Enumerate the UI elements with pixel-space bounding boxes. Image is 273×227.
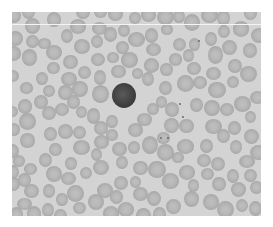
red-blood-cell (67, 95, 80, 109)
red-blood-cell (161, 24, 173, 35)
red-blood-cell (42, 203, 54, 216)
platelet (167, 137, 169, 139)
red-blood-cell (46, 166, 62, 182)
red-blood-cell (208, 82, 225, 98)
red-blood-cell (104, 27, 116, 42)
red-blood-cell (39, 153, 52, 167)
scan-line-artifact (12, 24, 261, 25)
red-blood-cell (251, 28, 261, 44)
red-blood-cell (108, 12, 123, 21)
micrograph (12, 12, 261, 216)
red-blood-cell (128, 123, 143, 137)
red-blood-cell (91, 53, 105, 66)
red-blood-cell (20, 82, 32, 94)
red-blood-cell (74, 39, 91, 54)
red-blood-cell (129, 12, 142, 24)
red-blood-cell (159, 81, 173, 95)
red-blood-cell (146, 43, 161, 57)
red-blood-cell (111, 65, 125, 79)
red-blood-cell (187, 62, 201, 75)
red-blood-cell (54, 209, 68, 216)
red-blood-cell (184, 14, 200, 30)
red-blood-cell (244, 169, 256, 182)
red-blood-cell (12, 207, 23, 216)
red-blood-cell (244, 12, 257, 20)
red-blood-cell (94, 135, 109, 149)
red-blood-cell (240, 66, 257, 82)
red-blood-cell (12, 123, 20, 136)
red-blood-cell (162, 173, 179, 189)
lymphocyte (112, 83, 136, 108)
red-blood-cell (160, 63, 173, 76)
platelet (179, 103, 181, 105)
red-blood-cell (97, 183, 113, 198)
red-blood-cell (148, 161, 165, 178)
red-blood-cell (222, 40, 237, 55)
red-blood-cell (73, 126, 86, 139)
red-blood-cell (25, 18, 40, 34)
red-blood-cell (144, 58, 159, 73)
red-blood-cell (141, 12, 156, 22)
red-blood-cell (27, 206, 41, 216)
red-blood-cell (78, 66, 91, 79)
red-blood-cell (190, 98, 202, 111)
red-blood-cell (177, 75, 194, 92)
red-blood-cell (208, 46, 224, 64)
red-blood-cell (142, 136, 158, 154)
red-blood-cell (112, 142, 127, 157)
red-blood-cell (116, 156, 128, 170)
red-blood-cell (245, 111, 256, 123)
platelet (198, 40, 200, 42)
red-blood-cell (56, 193, 68, 206)
red-blood-cell (249, 201, 261, 216)
red-blood-cell (250, 91, 261, 105)
red-blood-cell (211, 157, 225, 171)
red-blood-cell (153, 207, 166, 216)
red-blood-cell (70, 19, 87, 34)
red-blood-cell (26, 35, 39, 48)
red-blood-cell (116, 41, 129, 54)
red-blood-cell (93, 160, 109, 175)
red-blood-cell (193, 76, 207, 89)
red-blood-cell (128, 141, 141, 154)
red-blood-cell (201, 168, 214, 180)
red-blood-cell (130, 176, 141, 188)
red-blood-cell (61, 172, 76, 185)
red-blood-cell (228, 121, 241, 134)
red-blood-cell (218, 25, 230, 38)
red-blood-cell (200, 139, 212, 152)
red-blood-cell (118, 202, 135, 216)
red-blood-cell (61, 72, 77, 86)
red-blood-cell (217, 201, 234, 216)
red-blood-cell (188, 179, 199, 192)
red-blood-cell (92, 85, 109, 103)
red-blood-cell (128, 32, 145, 47)
red-blood-cell (94, 12, 106, 18)
red-blood-cell (133, 161, 147, 175)
red-blood-cell (58, 124, 73, 139)
red-blood-cell (173, 38, 186, 51)
red-blood-cell (20, 133, 35, 147)
red-blood-cell (65, 157, 77, 170)
red-blood-cell (206, 67, 221, 80)
red-blood-cell (76, 106, 87, 118)
red-blood-cell (22, 49, 37, 66)
red-blood-cell (63, 55, 77, 69)
red-blood-cell (165, 102, 179, 117)
red-blood-cell (217, 129, 230, 143)
red-blood-cell (147, 103, 158, 115)
red-blood-cell (236, 199, 248, 212)
red-blood-cell (166, 199, 181, 214)
red-blood-cell (230, 140, 243, 154)
red-blood-cell (12, 31, 23, 47)
red-blood-cell (197, 154, 211, 167)
red-blood-cell (250, 181, 261, 195)
red-blood-cell (147, 191, 161, 206)
platelet (160, 137, 162, 139)
red-blood-cell (234, 96, 251, 112)
red-blood-cell (227, 169, 239, 183)
red-blood-cell (67, 185, 84, 201)
red-blood-cell (173, 12, 185, 23)
red-blood-cell (179, 165, 195, 180)
red-blood-cell (201, 12, 217, 23)
